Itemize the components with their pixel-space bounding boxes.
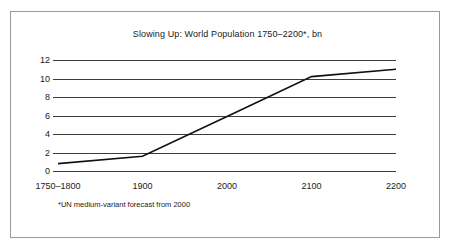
gridline-0 <box>58 171 396 172</box>
chart-title: Slowing Up: World Population 1750–2200*,… <box>0 29 455 39</box>
y-tick-label-2: 2 <box>45 148 50 157</box>
population-line-series <box>58 60 396 171</box>
x-tick-label-4: 2200 <box>386 182 406 191</box>
x-tick-label-1: 1900 <box>132 182 152 191</box>
chart-figure: Slowing Up: World Population 1750–2200*,… <box>0 0 455 249</box>
x-tick-label-0: 1750–1800 <box>35 182 80 191</box>
y-tick-mark-0 <box>53 171 58 172</box>
plot-area: 024681012 1750–18001900200021002200 <box>58 60 396 171</box>
chart-footnote: *UN medium-variant forecast from 2000 <box>58 200 190 209</box>
y-tick-label-0: 0 <box>45 167 50 176</box>
y-tick-label-8: 8 <box>45 93 50 102</box>
x-tick-label-2: 2000 <box>217 182 237 191</box>
x-tick-label-3: 2100 <box>301 182 321 191</box>
series-polyline <box>58 69 396 163</box>
y-tick-label-10: 10 <box>40 74 50 83</box>
y-tick-label-4: 4 <box>45 130 50 139</box>
y-tick-label-6: 6 <box>45 111 50 120</box>
y-tick-label-12: 12 <box>40 56 50 65</box>
